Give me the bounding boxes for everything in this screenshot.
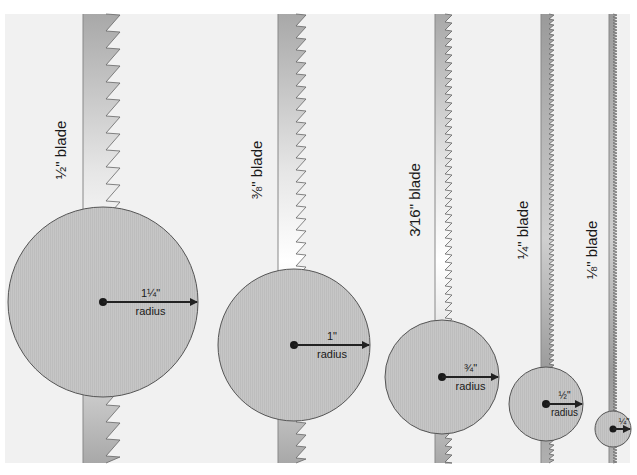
turning-circle-half: 1¼"radius xyxy=(8,207,198,397)
blade-label-half: ½" blade xyxy=(52,121,69,180)
radius-word: radius xyxy=(551,407,578,418)
turning-circle-three-eighths: 1"radius xyxy=(218,269,370,421)
radius-word: radius xyxy=(136,305,166,317)
blade-label-quarter: ¼" blade xyxy=(514,201,531,260)
blade-label-three-sixteenths: 3⁄16" blade xyxy=(406,163,423,237)
blade-radius-diagram: 1¼"radius1"radius¾"radius½"radius¼" ½" b… xyxy=(0,0,637,475)
radius-value: 1" xyxy=(327,330,337,342)
turning-circle-quarter: ½"radius xyxy=(509,367,583,441)
radius-value: ¼" xyxy=(619,416,630,426)
radius-word: radius xyxy=(317,348,347,360)
radius-value: 1¼" xyxy=(141,287,160,299)
turning-circle-three-sixteenths: ¾"radius xyxy=(385,320,499,434)
turning-circle-eighth: ¼" xyxy=(595,411,631,447)
radius-value: ½" xyxy=(559,390,571,401)
blade-label-three-eighths: ⅜" blade xyxy=(248,141,265,200)
blade-label-eighth: ⅛" blade xyxy=(583,221,600,280)
radius-value: ¾" xyxy=(464,362,477,374)
radius-word: radius xyxy=(456,380,486,392)
